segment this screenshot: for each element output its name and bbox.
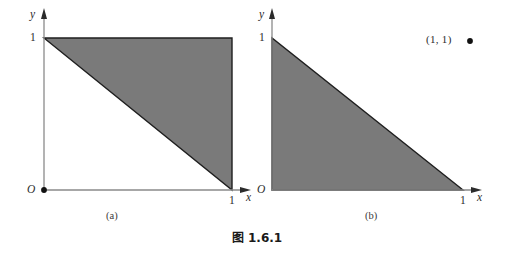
x-axis-label-b: x	[477, 192, 482, 204]
y-axis-arrow-b	[269, 8, 275, 19]
x-tick-label-1-b: 1	[460, 195, 466, 207]
origin-dot-a	[41, 187, 47, 193]
y-axis-label-a: y	[30, 9, 35, 21]
panel-caption-a: (a)	[106, 211, 118, 222]
x-tick-label-1-a: 1	[229, 195, 235, 207]
shaded-region-a	[44, 38, 232, 190]
panel-caption-b: (b)	[365, 211, 377, 222]
plot-b	[257, 0, 514, 210]
plot-a	[0, 0, 257, 210]
figure-caption: 图 1.6.1	[0, 232, 514, 244]
x-axis-label-a: x	[246, 192, 251, 204]
shaded-region-b	[272, 38, 463, 190]
origin-label-a: O	[27, 184, 35, 196]
panel-b: y 1 O 1 x (1, 1) (b)	[257, 0, 514, 232]
y-tick-label-1-a: 1	[30, 32, 36, 44]
figure-root: y 1 O 1 x (a) y 1 O 1 x (1, 1) (b) 图	[0, 0, 514, 256]
y-tick-label-1-b: 1	[259, 32, 265, 44]
point-label-1-1-b: (1, 1)	[426, 34, 452, 45]
y-axis-label-b: y	[259, 9, 264, 21]
point-marker-1-1-b	[467, 38, 473, 44]
origin-label-b: O	[257, 184, 265, 196]
y-axis-arrow-a	[41, 8, 47, 19]
panel-a: y 1 O 1 x (a)	[0, 0, 257, 232]
